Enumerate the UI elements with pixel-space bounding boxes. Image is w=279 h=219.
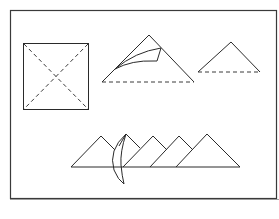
triangle-with-curl (102, 35, 194, 82)
pyramid-3 (123, 136, 167, 167)
small-triangle (198, 42, 260, 72)
pyramid-row (71, 134, 240, 184)
pyramid-5 (176, 134, 240, 167)
triangle-sides (102, 35, 194, 82)
square-with-diagonals (24, 44, 89, 110)
figure-frame (11, 11, 277, 199)
curl-edge-bottom (115, 48, 161, 69)
small-triangle-sides (198, 42, 260, 72)
pyramid-4 (150, 136, 193, 167)
origami-diagram (0, 0, 279, 219)
pyramid-1 (71, 136, 115, 167)
pyramid-2 (119, 134, 140, 148)
